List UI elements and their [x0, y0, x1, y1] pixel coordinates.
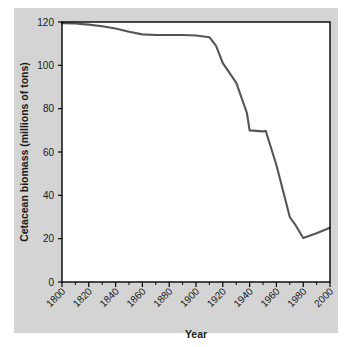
plot-area-background: [62, 22, 330, 282]
y-axis-tick-label: 60: [43, 147, 55, 158]
x-axis-title: Year: [185, 328, 207, 340]
x-axis-tick-label: 1860: [124, 285, 148, 309]
x-axis-tick-label: 2000: [312, 285, 336, 309]
x-axis-tick-label: 1920: [205, 285, 229, 309]
x-axis-tick-label: 1980: [285, 285, 309, 309]
x-axis-ticks: [62, 282, 330, 287]
x-axis-tick-labels: 1800182018401860188019001920194019601980…: [44, 285, 336, 309]
y-axis-tick-label: 40: [43, 190, 55, 201]
x-axis-tick-label: 1940: [232, 285, 256, 309]
chart-figure: 020406080100120 180018201840186018801900…: [0, 0, 345, 347]
y-axis-title: Cetacean biomass (millions of tons): [18, 62, 30, 242]
y-axis-tick-label: 120: [37, 17, 54, 28]
x-axis-tick-label: 1800: [44, 285, 68, 309]
x-axis-tick-label: 1960: [258, 285, 282, 309]
x-axis-tick-label: 1880: [151, 285, 175, 309]
y-axis-tick-label: 0: [48, 277, 54, 288]
y-axis-tick-label: 20: [43, 233, 55, 244]
x-axis-tick-label: 1900: [178, 285, 202, 309]
y-axis-tick-label: 80: [43, 103, 55, 114]
y-axis-tick-labels: 020406080100120: [37, 17, 54, 288]
line-chart: 020406080100120 180018201840186018801900…: [0, 0, 345, 347]
x-axis-tick-label: 1840: [98, 285, 122, 309]
y-axis-tick-label: 100: [37, 60, 54, 71]
x-axis-tick-label: 1820: [71, 285, 95, 309]
